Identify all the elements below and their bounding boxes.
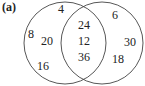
left-value: 20 [41,34,53,48]
left-value: 4 [58,2,64,16]
venn-diagram: (a) 4 8 20 16 24 12 36 6 30 18 [0,0,145,86]
intersection-value: 12 [78,34,90,48]
right-value: 30 [124,35,136,49]
left-value: 16 [37,59,49,73]
figure-label: (a) [2,0,16,14]
left-value: 8 [28,27,34,41]
intersection-value: 24 [78,18,90,32]
right-value: 18 [112,52,124,66]
right-value: 6 [112,8,118,22]
intersection-value: 36 [78,50,90,64]
